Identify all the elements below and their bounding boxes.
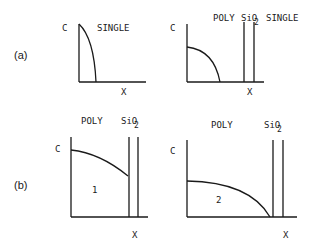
region-label-poly: POLY xyxy=(211,120,233,130)
panel-a-label: (a) xyxy=(14,49,27,61)
panel-b-left-plot: C POLY SiO 2 1 X xyxy=(55,116,148,240)
panel-b-label: (b) xyxy=(14,179,27,191)
region-label-poly: POLY xyxy=(213,13,235,23)
concentration-curve xyxy=(79,24,96,82)
y-axis-label: C xyxy=(170,146,175,156)
curve-label: 2 xyxy=(216,195,221,205)
x-axis-label: X xyxy=(283,230,289,240)
y-axis-label: C xyxy=(170,23,175,33)
panel-a-left-plot: C SINGLE X xyxy=(62,23,146,97)
panel-a-right-plot: C POLY SiO 2 SINGLE X xyxy=(170,13,299,97)
diffusion-profile-diagram: (a) C SINGLE X C POLY SiO 2 SINGLE X (b)… xyxy=(0,0,309,244)
x-axis-label: X xyxy=(121,87,127,97)
concentration-curve xyxy=(187,47,220,82)
y-axis-label: C xyxy=(62,23,67,33)
curve-label: 1 xyxy=(92,185,97,195)
region-label-sio2-subscript: 2 xyxy=(277,125,282,134)
region-label-poly: POLY xyxy=(81,116,103,126)
region-label-single: SINGLE xyxy=(97,23,130,33)
region-label-sio2-subscript: 2 xyxy=(254,18,259,27)
region-label-sio2-subscript: 2 xyxy=(134,121,139,130)
concentration-curve-2 xyxy=(187,181,270,217)
region-label-single: SINGLE xyxy=(266,13,299,23)
x-axis-label: X xyxy=(247,87,253,97)
x-axis-label: X xyxy=(132,230,138,240)
panel-b-right-plot: C POLY SiO 2 2 X xyxy=(170,120,297,240)
concentration-curve-1 xyxy=(71,150,128,176)
y-axis-label: C xyxy=(55,144,60,154)
